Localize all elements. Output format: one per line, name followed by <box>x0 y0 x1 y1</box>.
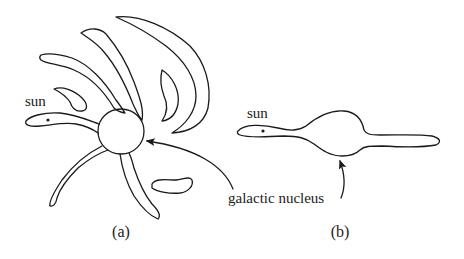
galactic-nucleus-label: galactic nucleus <box>228 190 324 206</box>
spiral-arm-crescent <box>161 70 178 121</box>
nucleus-arrow-a <box>147 141 233 189</box>
caption-a: (a) <box>112 223 130 241</box>
sun-label-a: sun <box>25 93 46 109</box>
sun-dot-a <box>46 118 49 121</box>
spiral-arm-lower-left <box>50 146 108 206</box>
sun-dot-b <box>261 129 264 132</box>
panel-b: sun (b) <box>237 105 439 241</box>
spiral-arm-lower <box>120 153 159 219</box>
gas-cloud-teardrop <box>54 88 87 111</box>
galaxy-diagram: sun (a) sun (b) galactic nucleus <box>0 0 464 259</box>
nucleus-arrow-b <box>340 161 344 198</box>
panel-a: sun (a) <box>25 17 233 241</box>
spiral-arm-outer <box>116 17 209 133</box>
spiral-arm-sun <box>26 113 99 133</box>
caption-b: (b) <box>331 223 350 241</box>
sun-label-b: sun <box>247 105 268 121</box>
gas-cloud-blob <box>152 178 192 193</box>
galactic-nucleus-a <box>98 109 144 154</box>
spiral-arm-2 <box>81 29 143 120</box>
